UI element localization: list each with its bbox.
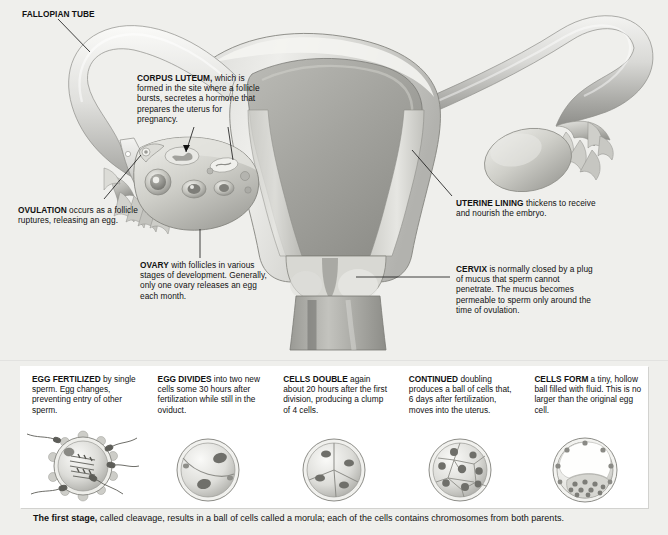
stage-text-1: EGG FERTILIZED by single sperm. Egg chan… bbox=[32, 374, 140, 415]
morula-icon bbox=[418, 430, 502, 506]
stage-term-2: EGG DIVIDES bbox=[158, 374, 212, 384]
stage-column-1: EGG FERTILIZED by single sperm. Egg chan… bbox=[20, 366, 146, 508]
stage-column-4: CONTINUED doubling produces a ball of ce… bbox=[397, 366, 523, 508]
label-term-uterine-lining: UTERINE LINING bbox=[456, 198, 524, 208]
stage-text-5: CELLS FORM a tiny, hollow ball filled wi… bbox=[534, 374, 642, 415]
callout-cervix: CERVIX is normally closed by a plug of m… bbox=[456, 264, 596, 315]
stage-art-5 bbox=[522, 428, 648, 506]
callout-corpus-luteum: CORPUS LUTEUM, which is formed in the si… bbox=[137, 73, 265, 124]
developing-follicle-2 bbox=[214, 181, 234, 196]
stage-text-3: CELLS DOUBLE again about 20 hours after … bbox=[283, 374, 391, 415]
stage-term-1: EGG FERTILIZED bbox=[32, 374, 101, 384]
label-term-fallopian-tube: FALLOPIAN TUBE bbox=[22, 9, 95, 19]
stages-row: EGG FERTILIZED by single sperm. Egg chan… bbox=[20, 366, 648, 508]
stage-art-1 bbox=[20, 428, 146, 506]
corpus-luteum bbox=[165, 147, 199, 165]
sperm-1 bbox=[104, 438, 137, 452]
stage-column-5: CELLS FORM a tiny, hollow ball filled wi… bbox=[522, 366, 648, 508]
mature-follicle bbox=[145, 169, 171, 195]
four-cell-embryo-icon bbox=[292, 430, 376, 506]
caption-lead: The first stage, bbox=[33, 513, 97, 523]
stage-art-2 bbox=[146, 428, 272, 506]
caption-rest: called cleavage, results in a ball of ce… bbox=[97, 513, 564, 523]
stage-term-4: CONTINUED bbox=[409, 374, 458, 384]
callout-uterine-lining: UTERINE LINING thickens to receive and n… bbox=[456, 198, 602, 218]
diagram-root: FALLOPIAN TUBE CORPUS LUTEUM, which is f… bbox=[0, 0, 668, 535]
stage-term-5: CELLS FORM bbox=[534, 374, 588, 384]
sperm-2 bbox=[106, 462, 138, 468]
stage-term-3: CELLS DOUBLE bbox=[283, 374, 348, 384]
two-cell-embryo-icon bbox=[166, 430, 250, 506]
label-term-cervix: CERVIX bbox=[456, 264, 487, 274]
developing-follicle-1 bbox=[182, 180, 206, 198]
label-term-ovary: OVARY bbox=[140, 260, 169, 270]
callout-ovulation: OVULATION occurs as a follicle ruptures,… bbox=[18, 205, 142, 225]
callout-ovary: OVARY with follicles in various stages o… bbox=[140, 260, 268, 301]
cleavage-stages-panel: EGG FERTILIZED by single sperm. Egg chan… bbox=[20, 366, 648, 508]
stage-text-2: EGG DIVIDES into two new cells some 30 h… bbox=[158, 374, 266, 415]
stage-art-3 bbox=[271, 428, 397, 506]
fertilized-egg-with-sperm-icon bbox=[23, 430, 143, 506]
label-term-corpus-luteum: CORPUS LUTEUM, bbox=[137, 73, 212, 83]
released-egg bbox=[125, 151, 130, 156]
callout-fallopian-tube: FALLOPIAN TUBE bbox=[22, 9, 142, 19]
stage-art-4 bbox=[397, 428, 523, 506]
stage-column-3: CELLS DOUBLE again about 20 hours after … bbox=[271, 366, 397, 508]
panel-caption: The first stage, called cleavage, result… bbox=[33, 513, 564, 524]
sperm-5 bbox=[27, 434, 61, 443]
stage-text-4: CONTINUED doubling produces a ball of ce… bbox=[409, 374, 517, 415]
label-term-ovulation: OVULATION bbox=[18, 205, 67, 215]
blastocyst-icon bbox=[541, 430, 629, 506]
vagina bbox=[290, 296, 386, 350]
panel-seam bbox=[0, 360, 668, 361]
stage-column-2: EGG DIVIDES into two new cells some 30 h… bbox=[146, 366, 272, 508]
